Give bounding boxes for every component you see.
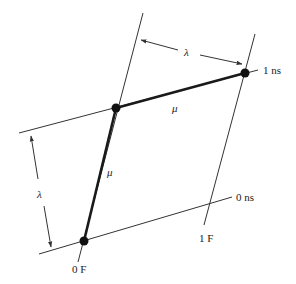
vertex-upper-right	[241, 69, 250, 78]
lambda-left-label: λ	[36, 188, 42, 200]
lambda-left-arrow-down	[44, 206, 51, 247]
mu-top-label: μ	[171, 102, 178, 114]
lambda-top-arrow-left	[141, 40, 178, 50]
space-label-0F: 0 F	[72, 263, 86, 275]
mu-edge-horizontal	[116, 73, 245, 108]
time-label-1ns: 1 ns	[263, 64, 281, 76]
spacetime-diagram: λ λ μ μ 1 ns 0 ns 0 F 1 F	[0, 0, 296, 284]
space-label-1F: 1 F	[199, 232, 213, 244]
vertex-origin	[80, 237, 89, 246]
time-label-0ns: 0 ns	[236, 191, 254, 203]
lambda-left-arrow-up	[31, 136, 38, 179]
timeline-bottom	[39, 197, 232, 254]
mu-left-label: μ	[106, 166, 113, 178]
vertex-upper-left	[112, 104, 121, 113]
lambda-top-arrow-right	[200, 55, 242, 64]
lambda-top-label: λ	[183, 46, 189, 58]
